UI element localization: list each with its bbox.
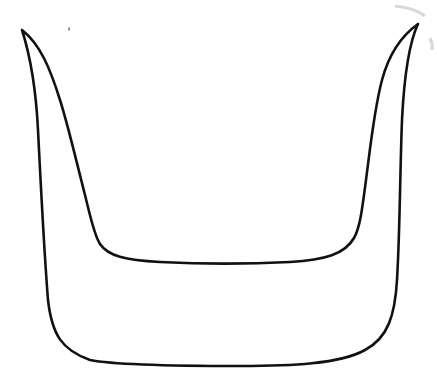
line-drawing — [0, 0, 437, 391]
background — [0, 0, 437, 391]
ink-speck — [69, 28, 70, 31]
